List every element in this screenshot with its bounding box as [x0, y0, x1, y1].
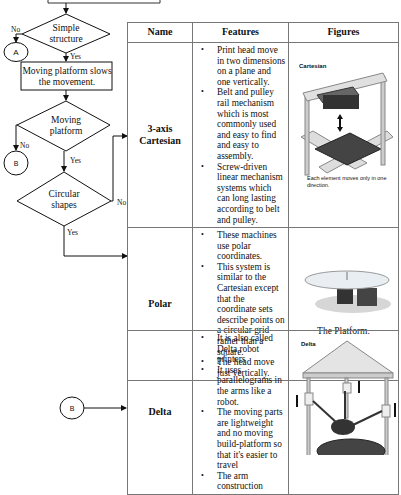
label-yes: Yes — [70, 53, 81, 61]
label-no: No — [20, 142, 29, 150]
table-row: Delta It is also called Delta robot prin… — [128, 331, 399, 495]
feature-item: Print head move in two dimensions on a p… — [217, 45, 286, 87]
polar-platform-illustration — [303, 266, 393, 318]
feature-item: The moving parts are lightweight and no … — [217, 407, 286, 471]
delta-table: Delta It is also called Delta robot prin… — [127, 330, 399, 495]
row-name-delta: Delta — [128, 331, 193, 495]
cartesian-printer-illustration — [295, 69, 395, 184]
row-features-delta: It is also called Delta robot printers I… — [193, 331, 289, 495]
header-figures: Figures — [289, 23, 399, 43]
feature-item: These machines use polar coordinates. — [217, 230, 286, 262]
connector-a: A — [10, 47, 22, 58]
feature-item: It is also called Delta robot printers — [217, 333, 286, 365]
printer-types-table: Name Features Figures 3-axis Cartesian P… — [127, 22, 399, 381]
feature-item: Screw-driven linear mechanism systems wh… — [217, 162, 286, 226]
table-header-row: Name Features Figures — [128, 23, 399, 43]
feature-item: The arm construction — [217, 471, 286, 492]
label-yes: Yes — [70, 157, 81, 165]
header-features: Features — [193, 23, 289, 43]
delta-printer-illustration — [293, 339, 398, 455]
feature-item: Belt and pulley rail mechanism which is … — [217, 87, 286, 161]
table-row: 3-axis Cartesian Print head move in two … — [128, 43, 399, 228]
decision-circular-shapes: Circular shapes — [36, 189, 92, 211]
label-no: No — [117, 199, 126, 207]
process-moving-platform: Moving platform slows the movement. — [22, 66, 112, 88]
label-yes: Yes — [67, 229, 78, 237]
header-name: Name — [128, 23, 193, 43]
row-name-cartesian: 3-axis Cartesian — [128, 43, 193, 228]
figure-delta: Delta — [289, 331, 399, 495]
decision-simple-structure: Simple structure — [40, 23, 92, 45]
decision-moving-platform: Moving platform — [38, 115, 94, 137]
label-no: No — [11, 26, 20, 34]
feature-item: It uses parallelograms in the arms like … — [217, 365, 286, 407]
connector-b-lower: B — [66, 403, 78, 414]
figure-caption: Each element moves only in one direction… — [307, 175, 397, 189]
connector-b: B — [10, 158, 22, 169]
figure-cartesian: Cartesian — [289, 43, 399, 228]
row-features-cartesian: Print head move in two dimensions on a p… — [193, 43, 289, 228]
